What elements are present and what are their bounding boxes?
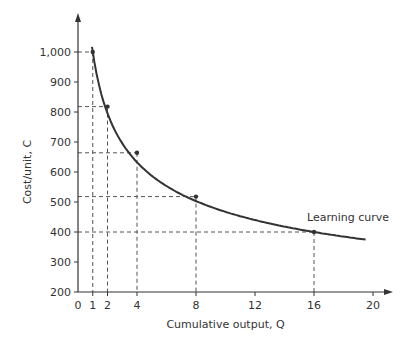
y-tick-label: 400 (50, 226, 71, 239)
y-tick-label: 600 (50, 166, 71, 179)
x-tick-label: 4 (134, 299, 141, 312)
y-tick-label: 1,000 (40, 46, 72, 59)
data-point (135, 151, 139, 155)
y-tick-label: 500 (50, 196, 71, 209)
x-tick-label: 12 (248, 299, 262, 312)
x-axis-label: Cumulative output, Q (166, 318, 285, 331)
x-tick-label: 20 (366, 299, 380, 312)
x-tick-label: 8 (193, 299, 200, 312)
y-tick-label: 300 (50, 256, 71, 269)
data-point (312, 230, 316, 234)
y-tick-label: 900 (50, 76, 71, 89)
chart-canvas: 2003004005006007008009001,00001248121620… (0, 0, 410, 347)
x-tick-label: 0 (75, 299, 82, 312)
y-tick-label: 200 (50, 286, 71, 299)
x-tick-label: 2 (104, 299, 111, 312)
learning-curve-chart: 2003004005006007008009001,00001248121620… (0, 0, 410, 347)
data-point (91, 50, 95, 54)
y-tick-label: 700 (50, 136, 71, 149)
x-axis-arrow-icon (384, 289, 393, 295)
x-tick-label: 1 (89, 299, 96, 312)
x-tick-label: 16 (307, 299, 321, 312)
y-tick-label: 800 (50, 106, 71, 119)
y-axis-arrow-icon (75, 13, 81, 22)
data-point (194, 194, 198, 198)
curve-annotation: Learning curve (307, 211, 389, 224)
data-point (105, 104, 109, 108)
y-axis-label: Cost/unit, C (21, 140, 34, 204)
